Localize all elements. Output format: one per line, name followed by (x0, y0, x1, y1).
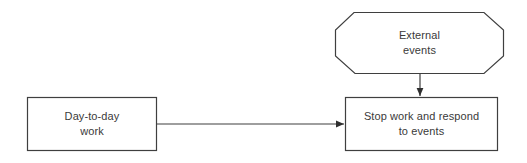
diagram-canvas (0, 0, 527, 163)
flowchart-diagram: Day-to-day work External events Stop wor… (0, 0, 527, 163)
node-external-events-shape (336, 13, 504, 74)
node-daily-work-shape (28, 98, 157, 151)
node-stop-work-shape (346, 98, 498, 151)
